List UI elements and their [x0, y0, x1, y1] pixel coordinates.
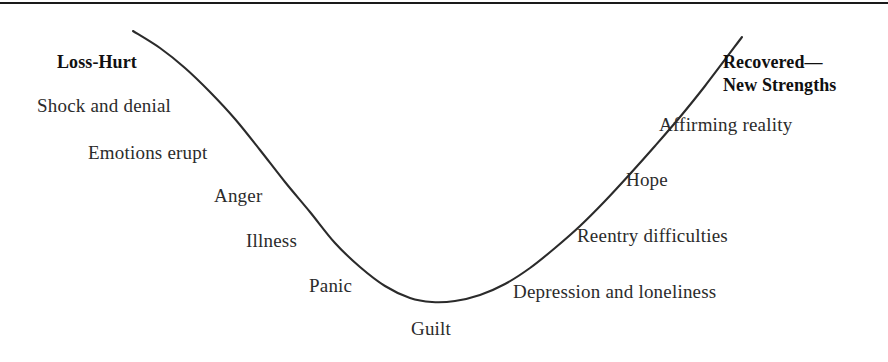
label-hope: Hope [626, 169, 668, 191]
label-recovered-line2: New Strengths [723, 75, 836, 95]
grief-curve-figure: Loss-Hurt Shock and denial Emotions erup… [0, 0, 888, 362]
label-shock-and-denial: Shock and denial [37, 95, 171, 117]
label-recovered-new-strengths: Recovered— New Strengths [723, 51, 836, 97]
label-affirming-reality: Affirming reality [659, 114, 792, 136]
label-loss-hurt: Loss-Hurt [57, 52, 137, 73]
label-emotions-erupt: Emotions erupt [88, 142, 207, 164]
label-recovered-line1: Recovered— [723, 52, 823, 72]
label-illness: Illness [246, 230, 297, 252]
label-depression-and-loneliness: Depression and loneliness [513, 281, 716, 303]
label-panic: Panic [309, 275, 352, 297]
curve-stroke [133, 31, 742, 302]
label-guilt: Guilt [411, 318, 451, 340]
label-reentry-difficulties: Reentry difficulties [577, 225, 728, 247]
label-anger: Anger [214, 185, 262, 207]
